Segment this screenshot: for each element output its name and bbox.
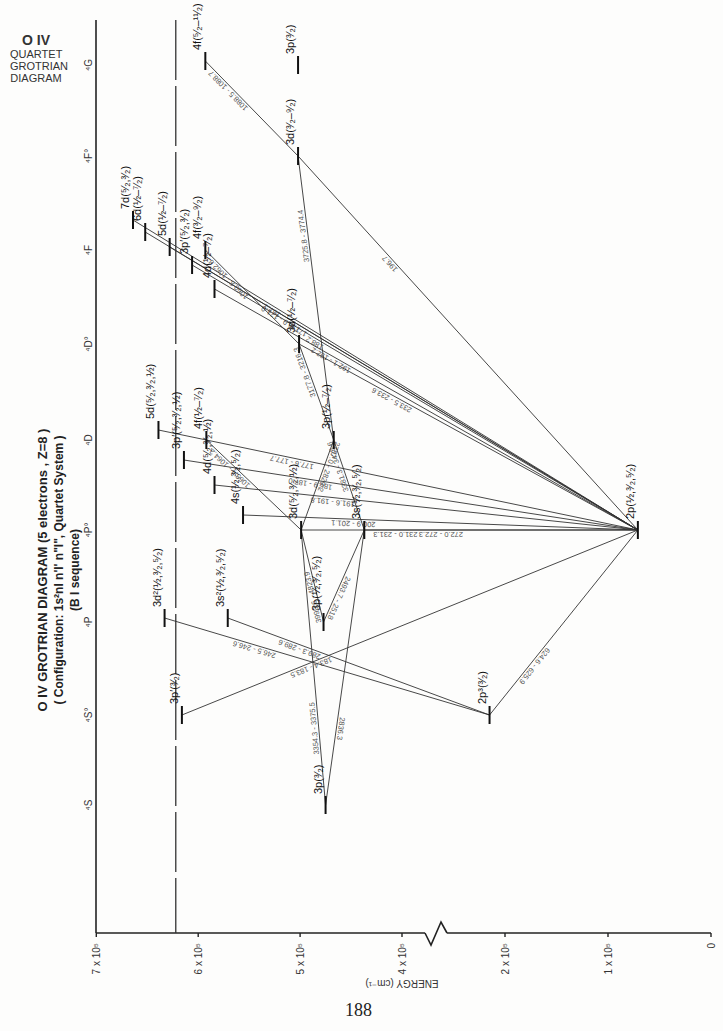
grotrian-diagram-page: O IV QUARTET GROTRIAN DIAGRAM O IV GROTR… (0, 0, 723, 1031)
energy-level: 3s²(½,³⁄₂,⁵⁄₂) (214, 549, 228, 627)
energy-level: 3p(½–⁷⁄₂) (320, 384, 334, 449)
transition: 196.7 (298, 156, 638, 530)
transition-line (165, 618, 490, 715)
level-label: 3d²(½,³⁄₂,⁵⁄₂) (151, 548, 163, 607)
level-label: 4f(³⁄₂–⁹⁄₂) (191, 196, 203, 239)
transition-line (228, 618, 490, 715)
level-label: 3p′(⁵⁄₂,³⁄₂,½) (170, 392, 182, 449)
term-column-label: ⁴F (83, 245, 94, 255)
transition: 246.5 - 246.6 (165, 618, 490, 715)
level-label: 3p(³⁄₂) (312, 765, 324, 794)
transition-wavelength: 192.1 - 192.2 (309, 346, 352, 376)
energy-level: 4d(½–⁷⁄₂) (201, 233, 215, 298)
transition: 183.4 - 183.5 (182, 530, 638, 715)
axis-tick-label: 4 x 10⁵ (397, 943, 408, 974)
axis-tick-label: 2 x 10⁵ (500, 943, 511, 974)
term-column-label: ⁴P° (83, 523, 94, 538)
level-label: 3p(³⁄₂) (284, 25, 296, 54)
term-column-label: ⁴S° (83, 708, 94, 723)
energy-level: 3p′(³⁄₂) (168, 673, 182, 724)
energy-level: 3d(½–⁷⁄₂) (285, 288, 299, 353)
transition-wavelength: 2836.3 (335, 717, 347, 741)
energy-level: 5d(⁵⁄₂,³⁄₂,½) (144, 364, 158, 439)
term-column-label: ⁴P (83, 616, 94, 627)
level-label: 3s(½,³⁄₂,⁵⁄₂) (350, 464, 362, 519)
main-title-line-3: (B I sequence) (68, 529, 82, 611)
main-title-line-2: ( Configuration: 1s²nl n'l' n"l", Quarte… (52, 435, 66, 704)
energy-level: 3p(³⁄₂) (312, 765, 326, 814)
energy-axis-title: ENERGY (cm⁻¹) (365, 978, 438, 989)
energy-level: 3d²(½,³⁄₂,⁵⁄₂) (151, 548, 165, 627)
level-label: 3p′(⁵⁄₂,³⁄₂) (178, 209, 190, 254)
axis-tick-label: 1 x 10⁵ (603, 943, 614, 974)
level-label: 3d(⁵⁄₂,³⁄₂,½) (287, 464, 299, 519)
energy-level: 4f(⁵⁄₂–¹¹⁄₂) (191, 3, 205, 70)
axis-ticks: 7 x 10⁵6 x 10⁵5 x 10⁵4 x 10⁵2 x 10⁵1 x 1… (91, 933, 717, 974)
term-column-label: ⁴G (83, 59, 94, 71)
energy-level: 3p′(⁵⁄₂,³⁄₂) (178, 209, 192, 274)
transition-wavelength: 2493.7 - 2518 (326, 575, 353, 621)
transition-line (215, 289, 638, 530)
transition: 192.1 - 192.2 (215, 289, 638, 530)
term-column-label: ⁴S (83, 799, 94, 810)
transition-line (184, 460, 638, 530)
term-column-label: ⁴D (83, 434, 94, 446)
energy-level: 4s(½,³⁄₂,⁵⁄₂) (229, 449, 243, 524)
axis-tick-label: 7 x 10⁵ (91, 943, 102, 974)
level-label: 4s(½,³⁄₂,⁵⁄₂) (229, 449, 241, 504)
column-labels: ⁴S⁴S°⁴P⁴P°⁴D⁴D°⁴F⁴F°⁴G (83, 59, 94, 811)
transition-wavelength: 246.5 - 246.6 (232, 639, 277, 660)
energy-level: 3d(³⁄₂–⁹⁄₂) (284, 99, 298, 165)
term-column-label: ⁴F° (83, 149, 94, 163)
level-label: 2p³(³⁄₂) (476, 671, 488, 704)
term-column-label: ⁴D° (83, 336, 94, 352)
transition-line (182, 530, 638, 715)
transition-wavelength: 231.0 - 231.3 (373, 530, 417, 539)
transition: 624.6 - 625.9 (490, 530, 638, 715)
transition-wavelength: 272.0 - 272.3 (419, 530, 463, 539)
axis-tick-label: 5 x 10⁵ (295, 943, 306, 974)
level-label: 4f(⁵⁄₂–¹¹⁄₂) (191, 3, 203, 50)
page-number: 188 (345, 1000, 372, 1021)
energy-level: 6d(½–⁷⁄₂) (131, 176, 145, 241)
transition: 289.3 - 289.6 (228, 618, 490, 715)
energy-level: 3p′(⁵⁄₂,³⁄₂,½) (170, 392, 184, 469)
level-label: 5d(⁵⁄₂,³⁄₂,½) (144, 364, 156, 419)
grotrian-svg: O IV GROTRIAN DIAGRAM (5 electrons , Z=8… (0, 0, 723, 1031)
level-label: 3d(³⁄₂–⁹⁄₂) (284, 99, 296, 145)
level-label: 3p(½,³⁄₂,⁵⁄₂) (310, 556, 322, 611)
level-label: 3d(½–⁷⁄₂) (285, 288, 297, 333)
transition-wavelength: 624.6 - 625.9 (517, 646, 552, 686)
main-title-line-1: O IV GROTRIAN DIAGRAM (5 electrons , Z=8… (35, 429, 50, 712)
transition-wavelength: 1060.8 - 1062.8 (207, 258, 250, 302)
level-label: 7d(⁵⁄₂,³⁄₂) (119, 166, 131, 209)
transition: 231.0 - 231.3 (301, 530, 638, 539)
transition-wavelength: 1088.5 - 1088.7 (207, 69, 250, 113)
transition-line (490, 530, 638, 715)
energy-level: 5d(½–⁷⁄₂) (156, 191, 170, 256)
axis-tick-label: 0 (706, 943, 717, 949)
main-title-block: O IV GROTRIAN DIAGRAM (5 electrons , Z=8… (35, 429, 82, 712)
energy-level: 3p(³⁄₂) (284, 25, 298, 74)
axis-break-icon (425, 922, 447, 945)
level-label: 2p(½,³⁄₂,⁵⁄₂) (624, 464, 636, 519)
transition-wavelength: 289.3 - 289.6 (277, 637, 322, 661)
energy-level: 4d(⁵⁄₂,³⁄₂,½) (201, 419, 215, 494)
level-label: 5d(½–⁷⁄₂) (156, 191, 168, 236)
energy-level: 2p³(³⁄₂) (476, 671, 490, 724)
level-label: 3p′(³⁄₂) (168, 673, 180, 704)
transition-line (298, 156, 638, 530)
transition: 186.9 - 187.0 (184, 460, 638, 530)
axis-tick-label: 6 x 10⁵ (193, 943, 204, 974)
energy-levels: 2p(½,³⁄₂,⁵⁄₂)2p³(³⁄₂)3p(³⁄₂)3p(½,³⁄₂,⁵⁄₂… (119, 3, 638, 814)
level-label: 3p(½–⁷⁄₂) (320, 384, 332, 429)
level-label: 4f(½–⁷⁄₂) (192, 387, 204, 429)
transition-wavelength: 3725.8 - 3774.4 (296, 209, 311, 262)
level-label: 3s²(½,³⁄₂,⁵⁄₂) (214, 549, 226, 607)
